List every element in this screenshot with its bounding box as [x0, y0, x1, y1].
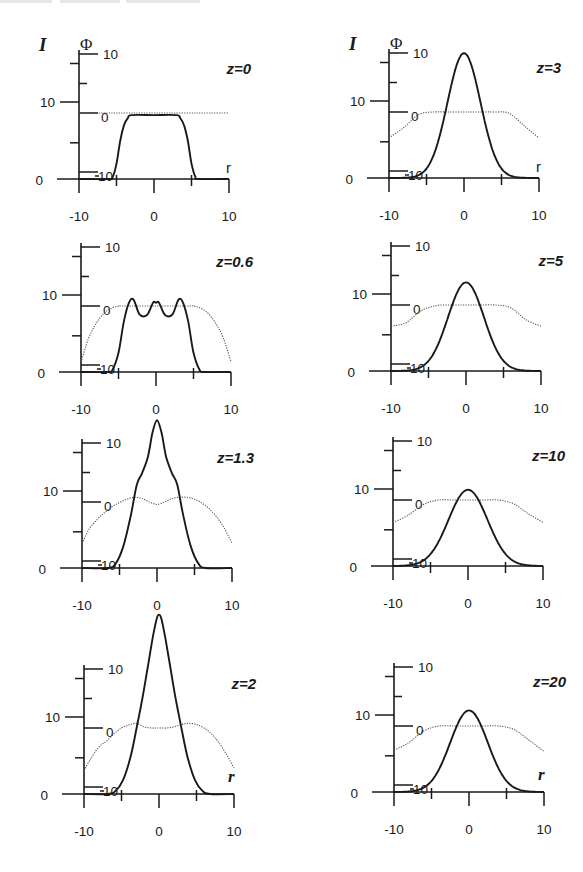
phase-tick-label-minus10: 10 — [98, 169, 113, 184]
z-distance-label: z=0.6 — [215, 253, 254, 270]
z-distance-label: z=1.3 — [216, 449, 255, 466]
phase-tick-label-10: 10 — [106, 436, 121, 451]
intensity-tick-label-10: 10 — [354, 482, 369, 497]
x-tick-label-minus10: -10 — [384, 822, 404, 837]
intensity-tick-label-10: 10 — [40, 95, 55, 110]
r-axis-label: r — [226, 159, 231, 176]
panel-z-0: IΦ10010100-10010rz=0 — [35, 34, 251, 224]
intensity-tick-label-0: 0 — [347, 365, 355, 380]
phase-tick-label-10: 10 — [415, 239, 430, 254]
intensity-tick-label-0: 0 — [38, 562, 46, 577]
phase-tick-label-10: 10 — [108, 662, 123, 677]
x-tick-label-0: 0 — [150, 209, 158, 224]
intensity-tick-label-0: 0 — [345, 172, 353, 187]
x-tick-label-0: 0 — [465, 822, 473, 837]
intensity-tick-label-10: 10 — [355, 708, 370, 723]
intensity-curve — [82, 420, 232, 568]
phase-tick-label-10: 10 — [103, 47, 118, 62]
panel-z-10: 10010100-10010z=10 — [349, 434, 565, 611]
intensity-curve — [391, 282, 541, 371]
intensity-tick-label-10: 10 — [42, 288, 57, 303]
panel-z-0_6: 10010100-10010z=0.6 — [37, 240, 253, 417]
phase-tick-label-0: 0 — [106, 725, 114, 740]
panel-z-1_3: 10010100-10010z=1.3 — [38, 420, 254, 613]
x-tick-label-0: 0 — [462, 401, 470, 416]
r-axis-label: r — [538, 765, 545, 784]
phase-tick-label-0: 0 — [413, 302, 421, 317]
x-tick-label-10: 10 — [533, 401, 548, 416]
intensity-tick-label-0: 0 — [40, 788, 48, 803]
phase-tick-label-0: 0 — [415, 497, 423, 512]
intensity-tick-label-0: 0 — [35, 173, 43, 188]
panel-z-5: 10010100-10010z=5 — [347, 239, 563, 416]
x-tick-label-0: 0 — [464, 596, 472, 611]
x-tick-label-10: 10 — [531, 208, 546, 223]
r-axis-label: r — [228, 767, 235, 786]
panel-z-3: IΦ10010100-10010rz=3 — [345, 33, 561, 223]
z-distance-label: z=2 — [230, 675, 256, 692]
phase-curve — [81, 306, 231, 362]
phase-tick-label-10: 10 — [417, 434, 432, 449]
x-tick-label-10: 10 — [536, 822, 551, 837]
beam-propagation-figure: IΦ10010100-10010rz=0IΦ10010100-10010rz=3… — [0, 0, 583, 872]
phase-tick-label-0: 0 — [101, 110, 109, 125]
x-tick-label-10: 10 — [226, 824, 241, 839]
phase-tick-label-0: 0 — [411, 109, 419, 124]
intensity-axis-symbol: I — [348, 33, 357, 54]
intensity-tick-label-10: 10 — [45, 710, 60, 725]
x-tick-label-0: 0 — [153, 598, 161, 613]
intensity-tick-label-0: 0 — [349, 560, 357, 575]
z-distance-label: z=20 — [532, 673, 567, 690]
intensity-tick-label-10: 10 — [43, 484, 58, 499]
x-tick-label-0: 0 — [152, 402, 160, 417]
x-tick-label-minus10: -10 — [71, 402, 91, 417]
x-tick-label-minus10: -10 — [383, 596, 403, 611]
x-tick-label-minus10: -10 — [379, 208, 399, 223]
x-tick-label-minus10: -10 — [381, 401, 401, 416]
x-tick-label-0: 0 — [460, 208, 468, 223]
x-tick-label-0: 0 — [155, 824, 163, 839]
x-tick-label-minus10: -10 — [72, 598, 92, 613]
intensity-tick-label-0: 0 — [37, 366, 45, 381]
r-axis-label: r — [536, 158, 541, 175]
phase-tick-label-0: 0 — [104, 499, 112, 514]
phase-tick-label-10: 10 — [105, 240, 120, 255]
intensity-axis-symbol: I — [38, 34, 47, 55]
z-distance-label: z=3 — [535, 59, 561, 76]
x-tick-label-minus10: -10 — [74, 824, 94, 839]
x-tick-label-10: 10 — [223, 402, 238, 417]
intensity-tick-label-10: 10 — [350, 94, 365, 109]
z-distance-label: z=10 — [531, 447, 566, 464]
intensity-tick-label-10: 10 — [352, 287, 367, 302]
phase-axis-symbol: Φ — [80, 35, 92, 54]
phase-axis-symbol: Φ — [390, 34, 402, 53]
x-tick-label-10: 10 — [224, 598, 239, 613]
phase-tick-label-10: 10 — [418, 660, 433, 675]
x-tick-label-10: 10 — [535, 596, 550, 611]
x-tick-label-minus10: -10 — [69, 209, 89, 224]
intensity-curve — [84, 615, 234, 795]
x-tick-label-10: 10 — [221, 209, 236, 224]
phase-tick-label-10: 10 — [413, 46, 428, 61]
phase-tick-label-0: 0 — [416, 723, 424, 738]
panel-z-2: 10010100-10010rz=2 — [40, 615, 256, 839]
z-distance-label: z=0 — [225, 60, 251, 77]
z-distance-label: z=5 — [537, 252, 563, 269]
intensity-tick-label-0: 0 — [350, 786, 358, 801]
panel-z-20: 10010100-10010rz=20 — [350, 660, 566, 837]
